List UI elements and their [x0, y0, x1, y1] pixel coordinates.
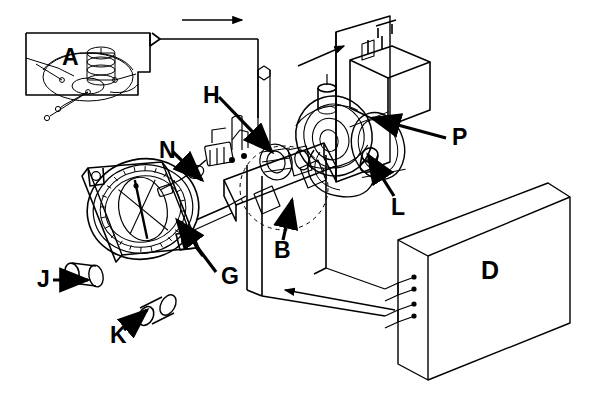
- compass-indicator: [63, 148, 246, 328]
- inset-detail-drawing: [26, 47, 138, 121]
- callout-label-A: A: [62, 46, 79, 69]
- callout-label-B: B: [274, 239, 291, 262]
- upper-housing-block: [286, 16, 430, 197]
- flow-arrow-top-right: [298, 46, 344, 66]
- adjustment-knob-left: [63, 262, 105, 288]
- callout-label-G: G: [221, 265, 239, 288]
- callout-label-P: P: [452, 126, 467, 149]
- callout-label-H: H: [203, 84, 220, 107]
- callout-label-J: J: [37, 268, 50, 291]
- diagram-canvas: A H N P L B G J K D: [0, 0, 594, 399]
- leader-B: [283, 200, 292, 240]
- callout-label-L: L: [391, 196, 405, 219]
- angled-mounting-plate: [224, 143, 336, 296]
- callout-label-D: D: [481, 258, 499, 283]
- flow-arrow-bottom: [285, 290, 395, 310]
- callout-label-K: K: [110, 324, 127, 347]
- detail-inset-frame: [26, 33, 258, 95]
- leader-G: [177, 220, 216, 272]
- wiring-terminals: [262, 268, 417, 328]
- leader-H: [219, 97, 272, 152]
- adjustment-knob-lower: [135, 292, 179, 328]
- callout-label-N: N: [159, 139, 176, 162]
- leader-P: [372, 118, 446, 138]
- leader-K: [124, 310, 147, 330]
- technical-illustration: [0, 0, 594, 399]
